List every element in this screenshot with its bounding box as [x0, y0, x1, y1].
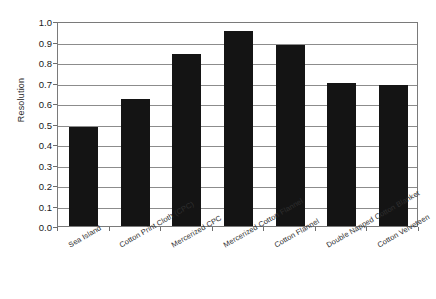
- bar-slot: [264, 23, 316, 226]
- x-tick-mark: [57, 227, 58, 231]
- bar-slot: [161, 23, 213, 226]
- y-tick-label: 0.8: [26, 58, 52, 69]
- plot-area: [57, 22, 418, 227]
- x-tick-mark: [160, 227, 161, 231]
- y-tick-label: 0.7: [26, 79, 52, 90]
- bar[interactable]: [69, 127, 98, 226]
- x-tick-mark: [212, 227, 213, 231]
- y-axis-title: Resolution: [16, 50, 26, 150]
- x-tick-mark: [418, 227, 419, 231]
- bar[interactable]: [327, 83, 356, 227]
- y-tick-label: 1.0: [26, 17, 52, 28]
- y-tick-label: 0.5: [26, 120, 52, 131]
- bar-slot: [110, 23, 162, 226]
- y-tick-label: 0.4: [26, 140, 52, 151]
- bar-slot: [316, 23, 368, 226]
- y-tick-label: 0.0: [26, 222, 52, 233]
- y-tick-label: 0.9: [26, 38, 52, 49]
- y-tick-label: 0.1: [26, 202, 52, 213]
- y-tick-label: 0.3: [26, 161, 52, 172]
- x-tick-mark: [109, 227, 110, 231]
- bar[interactable]: [121, 99, 150, 226]
- x-tick-mark: [315, 227, 316, 231]
- bars-layer: [58, 23, 417, 226]
- bar[interactable]: [224, 31, 253, 226]
- y-tick-label: 0.2: [26, 181, 52, 192]
- y-tick-label: 0.6: [26, 99, 52, 110]
- bar-chart: Resolution 1.00.90.80.70.60.50.40.30.20.…: [0, 0, 436, 299]
- x-axis-category-label: Sea Island: [67, 223, 103, 249]
- bar-slot: [213, 23, 265, 226]
- bar-slot: [58, 23, 110, 226]
